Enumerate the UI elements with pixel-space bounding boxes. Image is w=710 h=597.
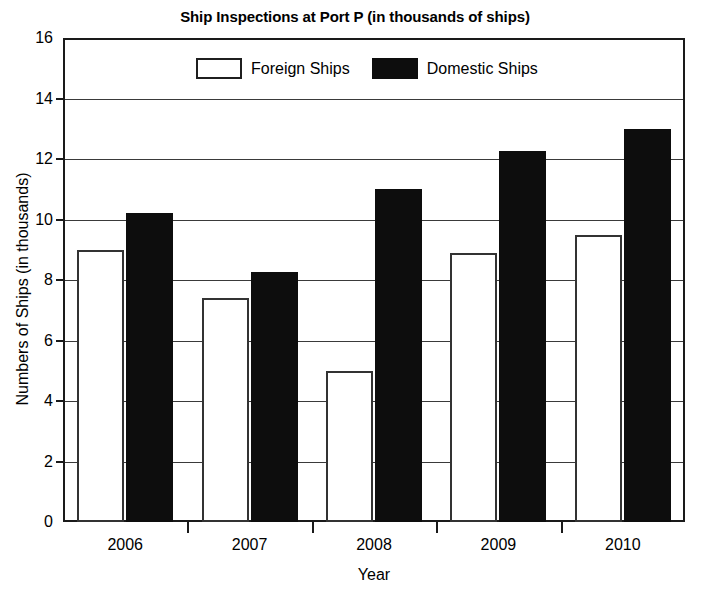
bar-2010-domestic <box>624 129 671 522</box>
x-tick-label-2007: 2007 <box>232 536 268 554</box>
x-tick-mark <box>187 522 189 533</box>
x-tick-label-2009: 2009 <box>481 536 517 554</box>
x-tick-label-2006: 2006 <box>107 536 143 554</box>
bar-2009-domestic <box>499 151 546 522</box>
bar-2007-domestic <box>251 272 298 522</box>
legend-item-foreign-ships: Foreign Ships <box>196 58 350 79</box>
bar-2010-foreign <box>575 235 622 522</box>
x-tick-label-2008: 2008 <box>356 536 392 554</box>
legend-label: Foreign Ships <box>251 60 350 78</box>
bar-chart: Ship Inspections at Port P (in thousands… <box>0 0 710 597</box>
legend-label: Domestic Ships <box>427 60 538 78</box>
bar-2008-domestic <box>375 189 422 522</box>
bar-2009-foreign <box>450 253 497 522</box>
x-tick-mark <box>312 522 314 533</box>
x-axis-title: Year <box>63 566 685 584</box>
black-rect-swatch <box>372 58 418 79</box>
legend-item-domestic-ships: Domestic Ships <box>372 58 538 79</box>
bar-2006-domestic <box>126 213 173 522</box>
white-rect-swatch <box>196 58 242 79</box>
bar-2008-foreign <box>326 371 373 522</box>
bar-2006-foreign <box>77 250 124 522</box>
x-tick-label-2010: 2010 <box>605 536 641 554</box>
chart-legend: Foreign ShipsDomestic Ships <box>196 58 538 79</box>
x-tick-mark <box>436 522 438 533</box>
bar-2007-foreign <box>202 298 249 522</box>
bars-layer <box>0 0 710 597</box>
x-tick-mark <box>561 522 563 533</box>
